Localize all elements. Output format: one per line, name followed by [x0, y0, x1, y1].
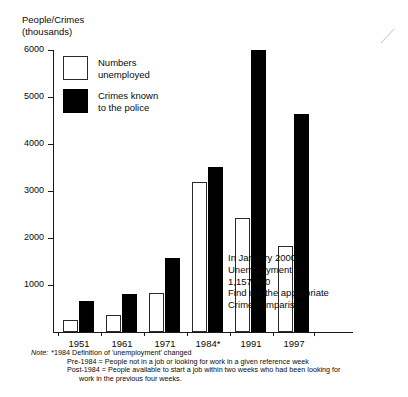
- x-axis-tick: [101, 332, 102, 336]
- x-axis-tick: [314, 332, 315, 336]
- bar-unemployed: [63, 320, 78, 332]
- chart-footnote: Note: *1984 Definition of 'unemployment'…: [31, 349, 403, 383]
- bar-crimes: [122, 294, 137, 332]
- legend-item-crimes: Crimes known to the police: [63, 89, 158, 113]
- legend-swatch-open-icon: [63, 56, 88, 80]
- legend-swatch-filled-icon: [63, 89, 88, 113]
- y-axis-tick-label: 6000: [24, 44, 44, 54]
- x-axis-tick: [144, 332, 145, 336]
- footnote-note-label: Note:: [31, 349, 48, 358]
- y-axis-tick-label: 3000: [24, 185, 44, 195]
- legend-item-unemployed: Numbers unemployed: [63, 56, 158, 80]
- chart-annotation-note: In January 2000 Unemployment = 1,157,900…: [228, 252, 329, 311]
- x-axis-tick: [187, 332, 188, 336]
- bar-unemployed: [106, 315, 121, 332]
- y-axis-tick-label: 2000: [24, 232, 44, 242]
- x-axis-tick: [58, 332, 59, 336]
- y-axis-tick-label: 4000: [24, 138, 44, 148]
- x-axis-label: 1997: [274, 338, 314, 349]
- bar-group: [192, 50, 223, 332]
- x-axis-tick: [230, 332, 231, 336]
- legend-label-unemployed: Numbers unemployed: [98, 56, 150, 80]
- bar-crimes: [79, 301, 94, 332]
- legend-label-crimes: Crimes known to the police: [98, 89, 158, 113]
- x-axis-tick: [273, 332, 274, 336]
- y-axis-title: People/Crimes (thousands): [22, 14, 84, 37]
- chart-legend: Numbers unemployed Crimes known to the p…: [63, 56, 158, 122]
- bar-unemployed: [192, 182, 207, 332]
- x-axis-label: 1991: [231, 338, 271, 349]
- x-axis-label: 1984*: [188, 338, 228, 349]
- footnote-post-1984-cont: work in the previous four weeks.: [79, 375, 403, 384]
- bar-unemployed: [149, 293, 164, 332]
- bar-crimes: [208, 167, 223, 332]
- y-axis-tick-label: 5000: [24, 91, 44, 101]
- x-axis-line: [53, 332, 353, 333]
- scan-artifact-mark: [380, 28, 396, 44]
- y-axis-tick-label: 1000: [24, 279, 44, 289]
- bar-crimes: [165, 258, 180, 332]
